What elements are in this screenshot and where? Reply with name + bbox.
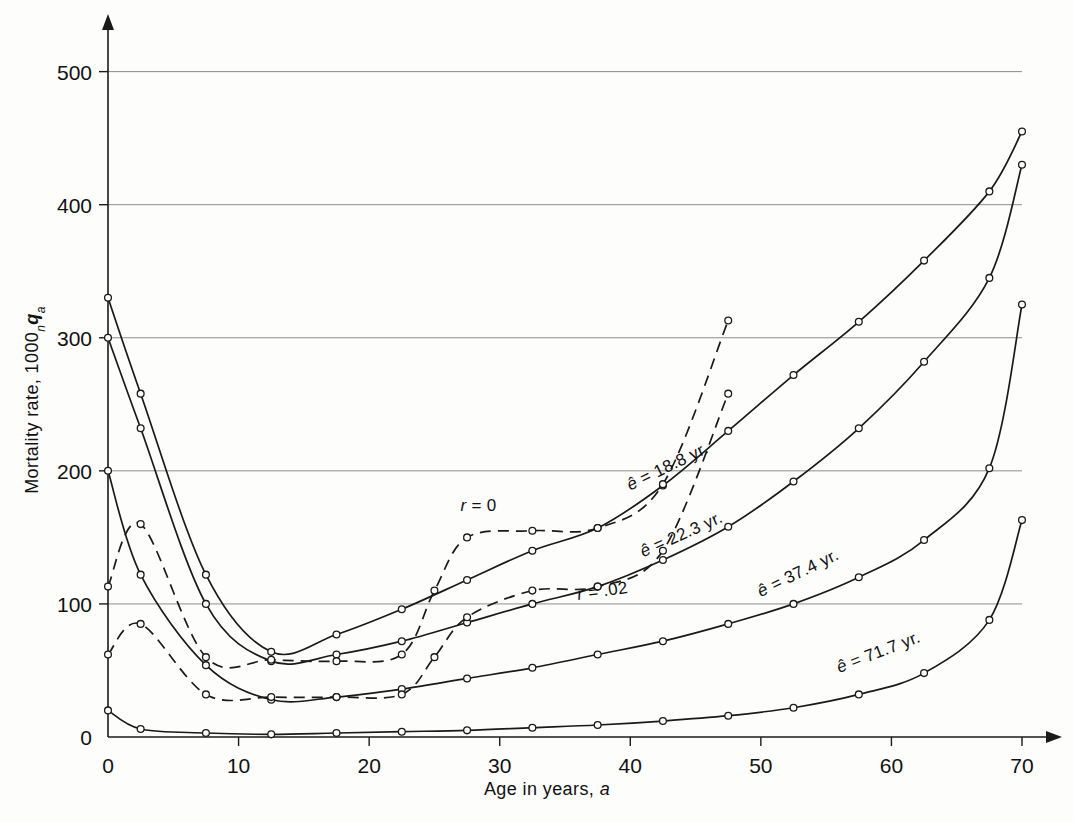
x-tick-label-0: 0 bbox=[102, 754, 114, 777]
data-point-marker bbox=[725, 428, 732, 435]
data-point-marker bbox=[660, 557, 667, 564]
data-point-marker bbox=[986, 616, 993, 623]
y-axis-tick-labels: 1002003004005000 bbox=[57, 61, 92, 749]
data-point-marker bbox=[105, 294, 112, 301]
y-title-text: Mortality rate, 1000 bbox=[22, 332, 42, 494]
x-tick-label-10: 10 bbox=[227, 754, 250, 777]
curve-label--18.8-yr.: ê = 18.8 yr. bbox=[624, 439, 712, 495]
data-point-marker bbox=[855, 691, 862, 698]
x-axis-ticks bbox=[239, 737, 1022, 746]
data-point-marker bbox=[203, 691, 210, 698]
x-axis-tick-labels: 010203040506070 bbox=[102, 754, 1034, 777]
y-title-symbol-q: q bbox=[22, 313, 42, 324]
y-tick-label-200: 200 bbox=[57, 460, 92, 483]
data-point-marker bbox=[1019, 128, 1026, 135]
data-point-marker bbox=[268, 731, 275, 738]
y-title-sub-a: a bbox=[34, 306, 48, 313]
x-tick-label-70: 70 bbox=[1010, 754, 1033, 777]
data-point-marker bbox=[137, 521, 144, 528]
data-point-marker bbox=[1019, 161, 1026, 168]
data-point-marker bbox=[333, 651, 340, 658]
data-point-marker bbox=[105, 583, 112, 590]
data-point-marker bbox=[268, 694, 275, 701]
data-point-marker bbox=[464, 675, 471, 682]
data-point-marker bbox=[105, 707, 112, 714]
data-point-marker bbox=[464, 614, 471, 621]
data-point-marker bbox=[660, 718, 667, 725]
data-point-marker bbox=[464, 577, 471, 584]
data-point-marker bbox=[203, 662, 210, 669]
x-tick-label-20: 20 bbox=[357, 754, 380, 777]
curve-e-71-7-yr- bbox=[108, 520, 1022, 734]
label-value: = 71.7 yr. bbox=[843, 628, 923, 674]
data-point-marker bbox=[398, 606, 405, 613]
mortality-rate-chart: 010203040506070 1002003004005000 ê = 18.… bbox=[0, 0, 1073, 822]
curve-r-0 bbox=[108, 320, 728, 667]
x-tick-label-50: 50 bbox=[749, 754, 772, 777]
data-point-marker bbox=[986, 465, 993, 472]
data-point-marker bbox=[464, 727, 471, 734]
svg-text:Age in years, a: Age in years, a bbox=[484, 779, 610, 799]
data-point-marker bbox=[203, 571, 210, 578]
data-point-marker bbox=[660, 638, 667, 645]
data-point-marker bbox=[790, 372, 797, 379]
data-point-marker bbox=[105, 334, 112, 341]
curve-label-r-0: r = 0 bbox=[461, 496, 497, 515]
data-point-marker bbox=[921, 670, 928, 677]
data-point-marker bbox=[725, 620, 732, 627]
curve-label--22.3-yr.: ê = 22.3 yr. bbox=[637, 508, 725, 561]
data-point-marker bbox=[333, 658, 340, 665]
figure-container: 010203040506070 1002003004005000 ê = 18.… bbox=[0, 0, 1073, 822]
data-point-marker bbox=[268, 656, 275, 663]
x-tick-label-60: 60 bbox=[880, 754, 903, 777]
label-value: = 0 bbox=[467, 496, 497, 515]
data-point-marker bbox=[431, 587, 438, 594]
data-point-marker bbox=[594, 722, 601, 729]
data-point-marker bbox=[105, 651, 112, 658]
label-value: = 37.4 yr. bbox=[763, 545, 842, 596]
gridlines-group bbox=[108, 72, 1022, 604]
data-point-marker bbox=[137, 425, 144, 432]
curve-r-02 bbox=[108, 394, 728, 701]
x-title-symbol: a bbox=[600, 779, 610, 799]
data-point-marker bbox=[1019, 301, 1026, 308]
data-point-marker bbox=[986, 274, 993, 281]
data-point-marker bbox=[594, 651, 601, 658]
y-axis-title: Mortality rate, 1000nqa bbox=[22, 306, 48, 494]
data-point-marker bbox=[398, 638, 405, 645]
data-point-marker bbox=[203, 601, 210, 608]
data-point-marker bbox=[137, 620, 144, 627]
data-point-marker bbox=[268, 648, 275, 655]
x-axis-arrowhead bbox=[1046, 731, 1062, 743]
data-point-marker bbox=[725, 390, 732, 397]
x-title-text: Age in years, bbox=[484, 779, 600, 799]
curve-label--37.4-yr.: ê = 37.4 yr. bbox=[754, 545, 842, 601]
data-point-marker bbox=[921, 537, 928, 544]
data-point-marker bbox=[203, 730, 210, 737]
data-point-marker bbox=[855, 318, 862, 325]
y-tick-label-300: 300 bbox=[57, 327, 92, 350]
data-point-marker bbox=[921, 257, 928, 264]
x-tick-label-40: 40 bbox=[619, 754, 642, 777]
data-point-marker bbox=[529, 664, 536, 671]
data-point-marker bbox=[529, 587, 536, 594]
data-point-marker bbox=[398, 691, 405, 698]
y-axis-arrowhead bbox=[102, 14, 114, 30]
data-point-marker bbox=[1019, 517, 1026, 524]
x-axis-title: Age in years, a bbox=[484, 779, 610, 799]
data-point-marker bbox=[529, 724, 536, 731]
data-point-marker bbox=[464, 534, 471, 541]
data-point-marker bbox=[725, 523, 732, 530]
data-point-marker bbox=[529, 601, 536, 608]
data-point-marker bbox=[333, 694, 340, 701]
data-point-marker bbox=[594, 525, 601, 532]
data-point-marker bbox=[137, 726, 144, 733]
data-point-marker bbox=[790, 478, 797, 485]
y-tick-label-400: 400 bbox=[57, 194, 92, 217]
data-point-marker bbox=[105, 467, 112, 474]
data-point-marker bbox=[790, 601, 797, 608]
data-point-marker bbox=[529, 527, 536, 534]
data-point-marker bbox=[921, 358, 928, 365]
svg-text:Mortality rate, 1000nqa: Mortality rate, 1000nqa bbox=[22, 306, 48, 494]
data-point-marker bbox=[986, 188, 993, 195]
